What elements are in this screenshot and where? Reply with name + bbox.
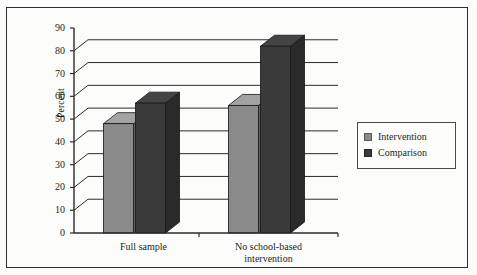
- legend-swatch-intervention: [364, 133, 372, 141]
- y-tick-label: 30: [39, 160, 65, 170]
- y-tick-label: 80: [39, 46, 65, 56]
- y-tick-label: 0: [39, 228, 65, 238]
- chart-legend: Intervention Comparison: [357, 122, 456, 169]
- legend-label-comparison: Comparison: [378, 147, 427, 158]
- bar-comparison-group0: [136, 92, 180, 233]
- legend-swatch-comparison: [364, 149, 372, 157]
- y-tick-label: 90: [39, 23, 65, 33]
- legend-label-intervention: Intervention: [378, 131, 427, 142]
- x-category-label: Full sample: [79, 241, 209, 253]
- legend-item-comparison: Comparison: [364, 147, 450, 158]
- y-tick-label: 70: [39, 69, 65, 79]
- figure-container: Percent 0102030405060708090 Full sampleN…: [0, 0, 477, 275]
- x-category-label: No school-basedintervention: [204, 241, 334, 264]
- y-tick-label: 50: [39, 114, 65, 124]
- y-tick-label: 40: [39, 137, 65, 147]
- y-tick-label: 60: [39, 91, 65, 101]
- legend-item-intervention: Intervention: [364, 131, 450, 142]
- y-tick-label: 20: [39, 182, 65, 192]
- y-tick-label: 10: [39, 205, 65, 215]
- bar-comparison-group1: [261, 35, 305, 233]
